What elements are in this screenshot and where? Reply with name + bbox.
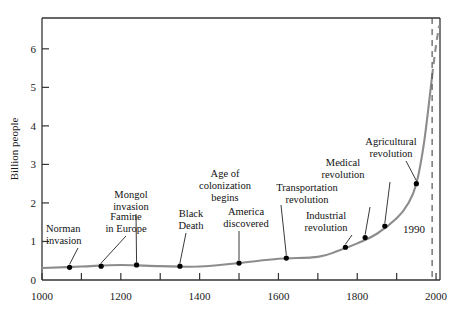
- event-marker-transportation: [363, 235, 368, 240]
- chart-figure: 0123456 100012001400160018002000 Billion…: [0, 0, 467, 316]
- event-label-agricultural: Agriculturalrevolution: [365, 136, 416, 159]
- year-1990-label: 1990: [403, 223, 426, 235]
- event-label-black-death: BlackDeath: [178, 208, 204, 231]
- x-tick-label: 1800: [346, 290, 369, 302]
- event-label-industrial: Industrialrevolution: [304, 210, 348, 233]
- event-label-mongol: Mongolinvasion: [113, 189, 149, 212]
- event-marker-norman: [67, 265, 72, 270]
- event-label-norman: Normaninvasion: [46, 223, 82, 246]
- event-label-america: Americadiscovered: [223, 206, 269, 229]
- event-label-medical: Medicalrevolution: [321, 157, 365, 180]
- x-tick-label: 1000: [31, 290, 54, 302]
- y-axis-title: Billion people: [8, 118, 20, 181]
- x-tick-label: 1600: [267, 290, 290, 302]
- y-tick-label: 5: [31, 81, 37, 93]
- y-tick-label: 0: [31, 274, 37, 286]
- event-label-famine: Faminein Europe: [105, 211, 146, 234]
- event-marker-medical: [382, 223, 387, 228]
- event-marker-america: [236, 260, 241, 265]
- event-marker-agricultural: [414, 181, 419, 186]
- y-tick-label: 1: [31, 235, 37, 247]
- y-tick-label: 3: [31, 158, 37, 170]
- event-marker-colonization: [284, 255, 289, 260]
- y-tick-label: 6: [31, 43, 37, 55]
- x-tick-label: 2000: [425, 290, 448, 302]
- event-marker-famine: [99, 264, 104, 269]
- event-marker-black-death: [177, 264, 182, 269]
- event-marker-industrial: [343, 245, 348, 250]
- y-tick-label: 2: [31, 197, 37, 209]
- y-tick-label: 4: [31, 120, 37, 132]
- x-tick-label: 1400: [189, 290, 212, 302]
- population-growth-chart: 0123456 100012001400160018002000 Billion…: [0, 0, 467, 316]
- event-marker-mongol: [134, 262, 139, 267]
- x-tick-label: 1200: [110, 290, 133, 302]
